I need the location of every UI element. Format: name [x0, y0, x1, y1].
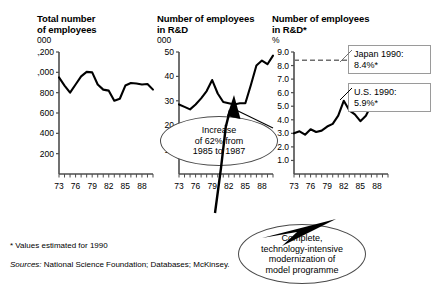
- svg-text:88: 88: [137, 181, 147, 191]
- svg-text:82: 82: [224, 181, 234, 191]
- svg-text:600: 600: [40, 108, 54, 118]
- footnote: * Values estimated for 1990: [10, 240, 108, 251]
- panel-title-rd-share: Number of employees in R&D* %: [272, 14, 392, 46]
- svg-text:76: 76: [71, 181, 81, 191]
- annotation-increase-62-percent: Increase of 62% from 1985 to 1987: [160, 116, 278, 166]
- sources-line: Sources: National Science Foundation; Da…: [10, 259, 230, 270]
- svg-text:50: 50: [165, 48, 175, 57]
- sources-text: National Science Foundation; Databases; …: [44, 260, 230, 269]
- svg-text:5.0: 5.0: [277, 101, 289, 111]
- svg-text:4.0: 4.0: [277, 115, 289, 125]
- svg-text:85: 85: [121, 181, 131, 191]
- svg-text:1,000: 1,000: [37, 67, 54, 77]
- svg-text:30: 30: [165, 96, 175, 106]
- panel-title-rd-employees: Number of employees in R&D 000: [157, 14, 285, 46]
- chart-unit-2: 000: [157, 35, 285, 46]
- svg-text:7.0: 7.0: [277, 74, 289, 84]
- svg-text:1,200: 1,200: [37, 48, 54, 57]
- chart-title-2: Number of employees in R&D: [157, 14, 285, 35]
- svg-text:73: 73: [289, 181, 299, 191]
- svg-text:79: 79: [207, 181, 217, 191]
- svg-text:82: 82: [104, 181, 114, 191]
- chart-total-employees: 2004006008001,0001,200737679828588: [37, 48, 159, 203]
- annotation-modernization: Complete, technology-intensive moderniza…: [238, 224, 366, 284]
- svg-text:82: 82: [339, 181, 349, 191]
- panel-title-total-employees: Total number of employees 000: [37, 14, 162, 46]
- svg-text:8.0: 8.0: [277, 61, 289, 71]
- svg-text:9.0: 9.0: [277, 48, 289, 57]
- callout-us-1990: U.S. 1990: 5.9%*: [348, 83, 431, 112]
- svg-text:400: 400: [40, 128, 54, 138]
- svg-text:76: 76: [306, 181, 316, 191]
- svg-text:79: 79: [87, 181, 97, 191]
- chart-unit-1: 000: [37, 35, 162, 46]
- svg-text:800: 800: [40, 88, 54, 98]
- sources-label: Sources:: [10, 260, 42, 269]
- svg-text:88: 88: [372, 181, 382, 191]
- svg-text:85: 85: [356, 181, 366, 191]
- chart-title-3: Number of employees in R&D*: [272, 14, 392, 35]
- svg-text:79: 79: [322, 181, 332, 191]
- figure-root: Total number of employees 000 Number of …: [0, 0, 431, 298]
- callout-japan-1990: Japan 1990: 8.4%*: [348, 45, 431, 74]
- svg-text:88: 88: [257, 181, 267, 191]
- svg-text:200: 200: [40, 149, 54, 159]
- svg-text:1.0: 1.0: [277, 155, 289, 165]
- svg-text:85: 85: [241, 181, 251, 191]
- chart-title-1: Total number of employees: [37, 14, 162, 35]
- svg-text:3.0: 3.0: [277, 128, 289, 138]
- svg-text:40: 40: [165, 71, 175, 81]
- svg-text:6.0: 6.0: [277, 88, 289, 98]
- svg-text:73: 73: [54, 181, 64, 191]
- svg-text:76: 76: [191, 181, 201, 191]
- chart-svg-1: 2004006008001,0001,200737679828588: [37, 48, 159, 203]
- svg-text:2.0: 2.0: [277, 142, 289, 152]
- svg-text:73: 73: [174, 181, 184, 191]
